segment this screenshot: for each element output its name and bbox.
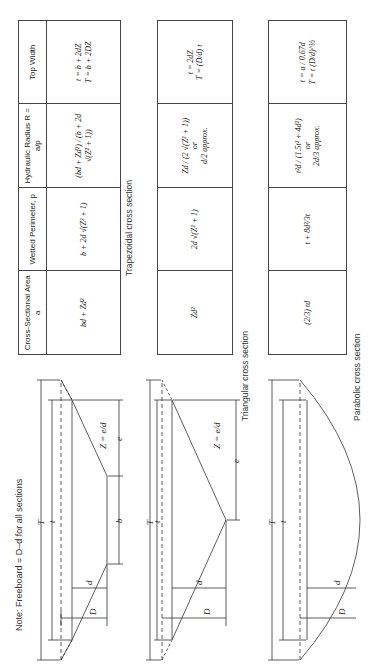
header-top-width: Top Width bbox=[19, 21, 46, 105]
tri-radius-approx: d/2 approx. bbox=[200, 127, 209, 164]
label-d-para: d bbox=[332, 580, 342, 585]
header-radius: Hydraulic Radius R = a/p bbox=[19, 105, 46, 189]
para-top-width-T: T = t (D/d)^½ bbox=[308, 40, 317, 85]
trapezoidal-row: bd + Zd² b + 2d √(Z² + 1) (bd + Zd²) / (… bbox=[47, 21, 120, 354]
label-t-tri: t bbox=[152, 520, 162, 523]
para-radius-approx: 2d/3 approx. bbox=[312, 125, 321, 166]
label-b-trap: b bbox=[114, 518, 124, 523]
freeboard-note: Note: Freeboard = D–d for all sections bbox=[14, 479, 24, 631]
channel-sections-figure: T t d D b e Z = e/d T t d D e Z = e/d T … bbox=[0, 0, 370, 671]
trapezoidal-table: Cross-Sectional Area a Wetted Perimeter,… bbox=[18, 20, 121, 355]
tri-top-width: t = 2dZ T = (D/d) t bbox=[158, 21, 232, 105]
para-radius-exact: t²d / (1.5t² + 4d²) bbox=[294, 118, 303, 173]
label-e-trap: e bbox=[114, 437, 124, 441]
label-t-trap: t bbox=[47, 520, 57, 523]
trap-perimeter: b + 2d √(Z² + 1) bbox=[47, 188, 120, 272]
para-area: (2/3) td bbox=[269, 272, 346, 355]
tri-perimeter: 2d √(Z² + 1) bbox=[158, 188, 232, 272]
para-top-width-t: t = a / 0.67d bbox=[298, 42, 307, 82]
tri-radius-or: or bbox=[190, 142, 199, 149]
trap-area: bd + Zd² bbox=[47, 272, 120, 355]
header-area: Cross-Sectional Area a bbox=[19, 272, 46, 355]
trap-radius: (bd + Zd²) / (b + 2d √(Z² + 1)) bbox=[47, 105, 120, 189]
tri-top-width-T: T = (D/d) t bbox=[195, 45, 204, 80]
label-D-trap: D bbox=[88, 608, 98, 616]
tri-radius: Zd / (2 √(Z² + 1)) or d/2 approx. bbox=[158, 105, 232, 189]
tri-top-width-t: t = 2dZ bbox=[186, 50, 195, 74]
parabolic-caption: Parabolic cross section bbox=[352, 334, 362, 421]
header-row: Cross-Sectional Area a Wetted Perimeter,… bbox=[19, 21, 47, 354]
para-radius: t²d / (1.5t² + 4d²) or 2d/3 approx. bbox=[269, 105, 346, 189]
label-d-tri: d bbox=[194, 580, 204, 585]
label-d-trap: d bbox=[84, 580, 94, 585]
triangular-caption: Triangular cross section bbox=[240, 331, 250, 421]
label-D-para: D bbox=[337, 608, 347, 616]
parabolic-table: (2/3) td t + 8d²/3t t²d / (1.5t² + 4d²) … bbox=[268, 20, 347, 355]
tri-radius-exact: Zd / (2 √(Z² + 1)) bbox=[181, 118, 190, 174]
label-T-para: T bbox=[267, 519, 277, 525]
tri-area: Zd² bbox=[158, 272, 232, 355]
trap-top-width: t = b + 2dZ T = b + 2DZ bbox=[47, 21, 120, 105]
trapezoidal-caption: Trapezoidal cross section bbox=[124, 180, 134, 276]
trap-top-width-t: t = b + 2dZ bbox=[74, 44, 83, 81]
label-T-trap: T bbox=[36, 519, 46, 525]
triangular-row: Zd² 2d √(Z² + 1) Zd / (2 √(Z² + 1)) or d… bbox=[158, 21, 232, 354]
para-top-width: t = a / 0.67d T = t (D/d)^½ bbox=[269, 21, 346, 105]
trap-top-width-T: T = b + 2DZ bbox=[84, 42, 93, 83]
label-Z-trap: Z = e/d bbox=[98, 422, 108, 449]
para-perimeter: t + 8d²/3t bbox=[269, 188, 346, 272]
header-perimeter: Wetted Perimeter, p bbox=[19, 188, 46, 272]
parabolic-row: (2/3) td t + 8d²/3t t²d / (1.5t² + 4d²) … bbox=[269, 21, 346, 354]
triangular-table: Zd² 2d √(Z² + 1) Zd / (2 √(Z² + 1)) or d… bbox=[157, 20, 233, 355]
para-radius-or: or bbox=[303, 142, 312, 149]
label-Z-tri: Z = e/d bbox=[212, 422, 222, 449]
label-D-tri: D bbox=[202, 608, 212, 616]
label-e-tri: e bbox=[231, 459, 241, 463]
label-t-para: t bbox=[278, 520, 288, 523]
